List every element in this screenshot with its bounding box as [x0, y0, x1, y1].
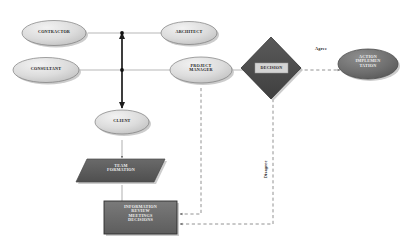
flowchart-svg: [0, 0, 405, 252]
ellipse-nodes: [13, 21, 398, 135]
edge-decision-inforeview-disagree: [180, 99, 273, 224]
central-spine: [120, 31, 124, 108]
spine-junction-mid: [120, 68, 124, 72]
node-contractor[interactable]: [22, 21, 86, 46]
edge-pm-to-inforeview: [180, 88, 201, 214]
flowchart-canvas: CONTRACTOR ARCHITECT CONSULTANT PROJECT …: [0, 0, 405, 252]
node-decision[interactable]: [241, 37, 301, 99]
node-client[interactable]: [95, 110, 149, 134]
decision-label-plate: [255, 63, 288, 73]
spine-junction-top: [120, 31, 124, 35]
node-architect[interactable]: [161, 22, 217, 45]
node-action-implementation[interactable]: [338, 49, 398, 79]
node-consultant[interactable]: [13, 58, 79, 83]
dashed-routes: [180, 70, 340, 224]
shape-shadows: [15, 23, 400, 237]
node-project-manager[interactable]: [170, 57, 232, 83]
node-information-review[interactable]: [104, 201, 177, 234]
node-team-formation[interactable]: [76, 159, 165, 182]
